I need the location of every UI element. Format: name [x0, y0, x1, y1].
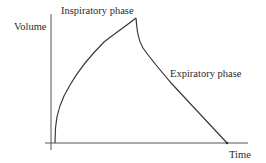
end-point	[226, 142, 228, 144]
expiratory-curve	[136, 18, 227, 143]
y-axis-label: Volume	[14, 21, 46, 33]
inspiratory-curve	[55, 18, 136, 143]
expiratory-phase-label: Expiratory phase	[170, 68, 241, 80]
x-axis-label: Time	[229, 149, 251, 161]
inspiratory-phase-label: Inspiratory phase	[61, 5, 134, 17]
